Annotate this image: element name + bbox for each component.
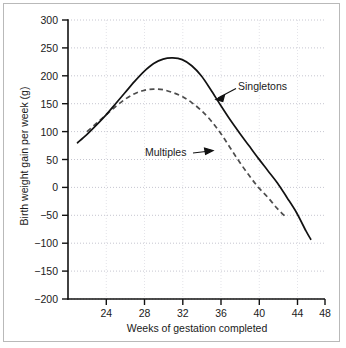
multiples-arrow-head — [205, 148, 214, 154]
series-label-multiples: Multiples — [145, 146, 186, 158]
y-axis-title: Birth weight gain per week (g) — [18, 56, 30, 256]
ytick-label-250: 250 — [14, 43, 58, 54]
birth-weight-gain-chart: 300 250 200 150 100 50 0 −50 −100 −150 −… — [0, 0, 346, 348]
xtick-label-24: 24 — [86, 308, 126, 319]
xtick-label-32: 32 — [163, 308, 203, 319]
ytick-label-300: 300 — [14, 15, 58, 26]
ytick-label-neg150: −150 — [14, 266, 58, 277]
series-line-multiples — [87, 89, 287, 218]
xtick-label-36: 36 — [201, 308, 241, 319]
xtick-label-48: 48 — [305, 308, 345, 319]
xtick-label-28: 28 — [125, 308, 165, 319]
xtick-label-40: 40 — [239, 308, 279, 319]
axis-spines — [67, 19, 325, 300]
series-label-singletons: Singletons — [238, 80, 287, 92]
annotation-arrows — [193, 89, 236, 155]
x-axis-title: Weeks of gestation completed — [68, 322, 326, 334]
ytick-label-neg200: −200 — [14, 294, 58, 305]
x-axis-ticks — [106, 299, 325, 305]
y-axis-ticks — [62, 20, 68, 299]
